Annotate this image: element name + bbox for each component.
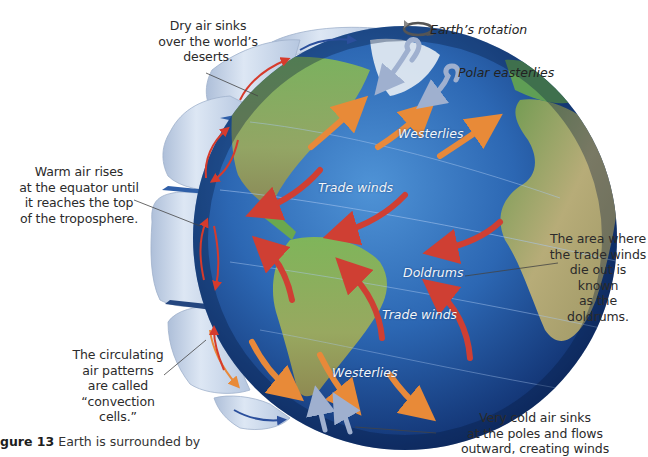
westerlies-north-label: Westerlies (398, 126, 463, 141)
doldrums-label: Doldrums (403, 265, 463, 280)
cold-air-callout: Very cold air sinks at the poles and flo… (430, 410, 640, 457)
polar-easterlies-label: Polar easterlies (458, 65, 554, 80)
figure-caption-text: Earth is surrounded by (58, 434, 200, 449)
warm-air-callout: Warm air rises at the equator until it r… (10, 164, 148, 226)
earth-rotation-label: Earth’s rotation (430, 22, 527, 37)
dry-air-callout: Dry air sinks over the world’s deserts. (138, 18, 278, 65)
trade-winds-south-label: Trade winds (382, 307, 457, 322)
figure-caption: gure 13 Earth is surrounded by (0, 434, 200, 449)
westerlies-south-label: Westerlies (332, 365, 397, 380)
figure-number: gure 13 (0, 434, 54, 449)
convection-cells-callout: The circulating air patterns are called … (62, 347, 174, 425)
doldrums-definition-callout: The area where the trade winds die out i… (548, 231, 648, 324)
trade-winds-north-label: Trade winds (318, 180, 393, 195)
